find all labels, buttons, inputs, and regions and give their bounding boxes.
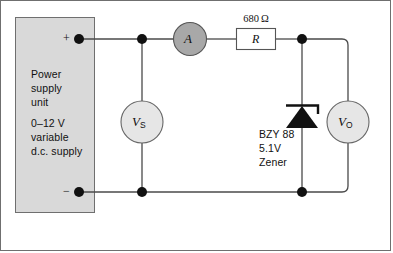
voltmeter-source-label: VS bbox=[132, 114, 146, 131]
wire-vo-top-loop bbox=[302, 39, 348, 101]
resistor-value-label: 680 Ω bbox=[226, 12, 286, 25]
zener-label-line-2: 5.1V bbox=[259, 142, 281, 155]
junction-dot-zener-top bbox=[297, 34, 307, 44]
junction-dot-negative-terminal bbox=[74, 187, 84, 197]
voltmeter-source-subscript: S bbox=[140, 120, 146, 130]
resistor-symbol-label: R bbox=[252, 32, 259, 47]
negative-terminal-label: − bbox=[63, 184, 70, 199]
voltmeter-output-label: VO bbox=[338, 114, 353, 131]
zener-label-line-3: Zener bbox=[259, 156, 287, 169]
psu-label-line-5: variable bbox=[31, 131, 69, 144]
voltmeter-source-letter: V bbox=[132, 114, 140, 129]
zener-anode-triangle bbox=[286, 106, 318, 128]
wire-vo-bottom-loop bbox=[302, 143, 348, 192]
psu-label-line-4: 0–12 V bbox=[31, 117, 65, 130]
positive-terminal-label: + bbox=[63, 31, 70, 46]
circuit-diagram: Power supply unit 0–12 V variable d.c. s… bbox=[0, 0, 393, 253]
power-supply-box bbox=[16, 18, 95, 213]
psu-label-line-2: supply bbox=[31, 82, 62, 95]
psu-label-line-3: unit bbox=[31, 96, 48, 109]
voltmeter-output-subscript: O bbox=[346, 120, 353, 130]
psu-label-line-6: d.c. supply bbox=[31, 145, 82, 158]
junction-dot-vs-top bbox=[137, 34, 147, 44]
zener-label-line-1: BZY 88 bbox=[259, 128, 294, 141]
ammeter-label: A bbox=[184, 31, 192, 47]
voltmeter-output-letter: V bbox=[338, 114, 346, 129]
psu-label-line-1: Power bbox=[31, 68, 61, 81]
junction-dot-vs-bottom bbox=[137, 187, 147, 197]
junction-dot-positive-terminal bbox=[74, 34, 84, 44]
junction-dot-zener-bottom bbox=[297, 187, 307, 197]
